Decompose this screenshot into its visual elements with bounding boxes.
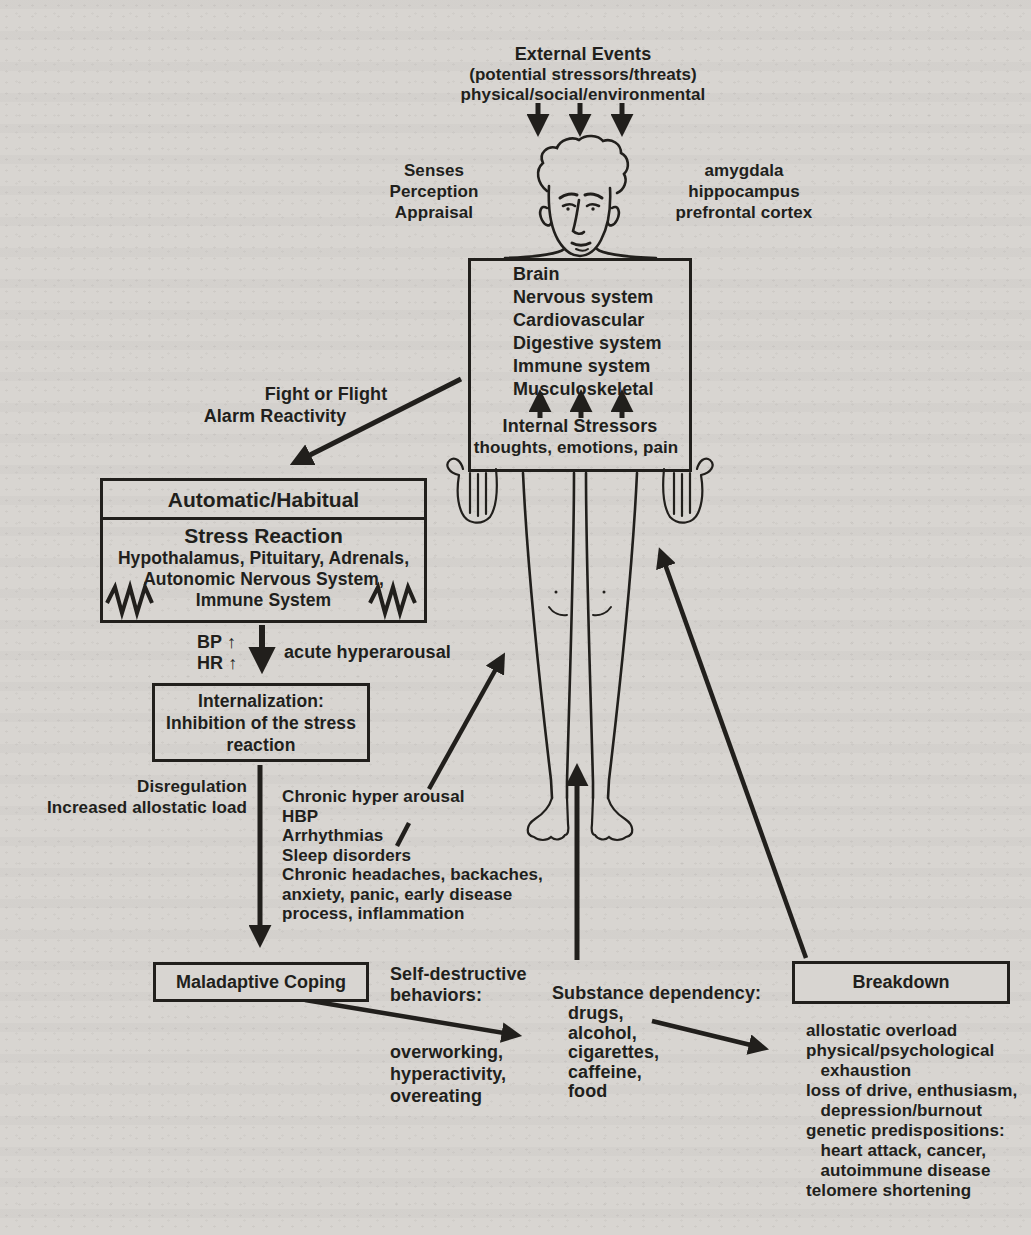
mouth	[572, 243, 590, 245]
substance-to-breakdown-arrow	[652, 1021, 763, 1048]
maladaptive-coping-box: Maladaptive Coping	[153, 962, 369, 1002]
fight-flight-label-1: Fight or Flight	[265, 384, 387, 405]
internalization-text: Internalization: Inhibition of the stres…	[166, 690, 356, 756]
head-hair	[538, 136, 628, 193]
fight-flight-label-2: Alarm Reactivity	[204, 406, 347, 427]
acute-hyperarousal-label: acute hyperarousal	[284, 642, 451, 663]
substance-dependency-title: Substance dependency:	[552, 983, 761, 1004]
knee-marks	[549, 607, 611, 615]
substance-dependency-list: drugs, alcohol, cigarettes, caffeine, fo…	[568, 1004, 659, 1102]
external-events-subtitle: (potential stressors/threats)	[469, 65, 697, 85]
chronic-effects-list: Chronic hyper arousal HBP Arrhythmias Sl…	[282, 787, 543, 924]
self-destructive-label: Self-destructive behaviors:	[390, 964, 527, 1006]
body-systems-list: Brain Nervous system Cardiovascular Dige…	[513, 263, 662, 401]
breakdown-box: Breakdown	[792, 961, 1010, 1004]
external-events-arrows	[538, 103, 622, 130]
breakdown-effects-list: allostatic overload physical/psychologic…	[806, 1021, 1017, 1201]
external-events-title: External Events	[515, 44, 652, 64]
stress-reaction-box: Automatic/Habitual Stress Reaction Hypot…	[100, 478, 427, 623]
chin-line	[576, 249, 588, 251]
human-figure	[447, 136, 712, 840]
breakdown-to-body-arrow	[661, 553, 806, 958]
book-page-scan: External Events (potential stressors/thr…	[0, 0, 1031, 1235]
stress-reaction-box-header: Automatic/Habitual	[103, 481, 424, 520]
legs	[523, 473, 637, 798]
disregulation-label: Disregulation Increased allostatic load	[17, 776, 247, 818]
stress-reaction-box-title: Stress Reaction	[103, 520, 424, 548]
eyebrows	[560, 194, 602, 198]
right-foot	[592, 798, 633, 840]
brain-regions-label: amygdala hippocampus prefrontal cortex	[676, 160, 813, 223]
appraisal-label: Senses Perception Appraisal	[390, 160, 479, 223]
behaviors-list: overworking, hyperactivity, overeating	[390, 1041, 506, 1107]
vitals-label: BP ↑ HR ↑	[197, 632, 237, 674]
internal-stressors-title: Internal Stressors	[503, 416, 658, 437]
internal-stressors-subtitle: thoughts, emotions, pain	[474, 437, 679, 458]
external-events-subtitle2: physical/social/environmental	[461, 85, 706, 105]
internalization-box: Internalization: Inhibition of the stres…	[152, 683, 370, 762]
stress-reaction-box-body: Hypothalamus, Pituitary, Adrenals, Auton…	[103, 548, 424, 611]
eyes	[563, 205, 599, 207]
